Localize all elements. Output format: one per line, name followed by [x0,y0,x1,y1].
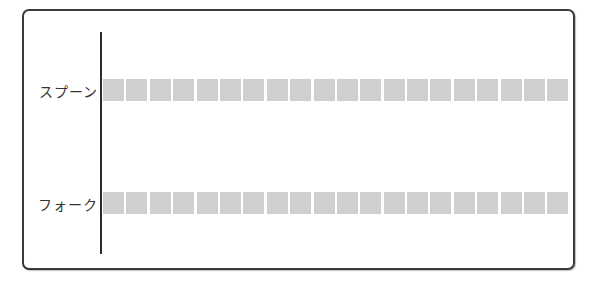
unit-square [314,192,335,214]
bar-row-fork [103,192,568,214]
unit-square [197,192,218,214]
bar-row-spoon [103,79,568,101]
unit-square [337,79,358,101]
unit-square [173,79,194,101]
unit-square [150,79,171,101]
unit-square [197,79,218,101]
unit-square [267,79,288,101]
unit-square [454,79,475,101]
unit-square [126,192,147,214]
chart-card [22,9,575,270]
unit-square [524,79,545,101]
unit-square [337,192,358,214]
unit-square [360,79,381,101]
unit-square [173,192,194,214]
unit-square [430,192,451,214]
unit-square [454,192,475,214]
unit-square [267,192,288,214]
unit-square [477,79,498,101]
unit-square [547,192,568,214]
unit-square [243,79,264,101]
category-label-spoon: スプーン [26,81,98,101]
unit-square [501,79,522,101]
y-axis-line [100,32,102,254]
unit-square [407,79,428,101]
unit-square [407,192,428,214]
category-label-fork: フォーク [26,194,98,214]
unit-square [524,192,545,214]
unit-square [430,79,451,101]
unit-square [103,79,124,101]
unit-square [220,79,241,101]
unit-square [547,79,568,101]
unit-square [384,79,405,101]
unit-square [290,192,311,214]
unit-square [290,79,311,101]
unit-square [103,192,124,214]
unit-square [150,192,171,214]
unit-square [126,79,147,101]
unit-square [384,192,405,214]
unit-square [477,192,498,214]
unit-square [314,79,335,101]
unit-square [360,192,381,214]
unit-square [501,192,522,214]
unit-square [243,192,264,214]
unit-square [220,192,241,214]
